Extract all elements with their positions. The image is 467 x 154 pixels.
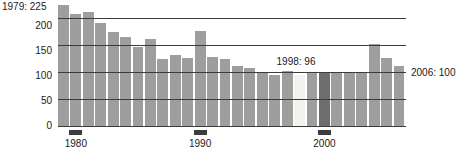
- plot-area: [58, 0, 406, 127]
- bar-rect-1998: [294, 75, 305, 127]
- bar-1979: [58, 0, 69, 127]
- annotation-first-year: 1979: 225: [2, 2, 47, 12]
- bar-1993: [232, 0, 243, 127]
- bar-1988: [170, 0, 181, 127]
- x-tick-label-2000: 2000: [302, 138, 346, 149]
- bar-rect-1991: [207, 57, 218, 127]
- bar-1992: [220, 0, 231, 127]
- bar-rect-1983: [108, 32, 119, 127]
- x-tick-label-1980: 1980: [54, 138, 98, 149]
- y-tick-label-0: 0: [46, 121, 52, 131]
- bar-2002: [344, 0, 355, 127]
- bar-1998: [294, 0, 305, 127]
- bar-rect-1992: [220, 59, 231, 127]
- bar-1990: [195, 0, 206, 127]
- bar-1984: [120, 0, 131, 127]
- bar-rect-1988: [170, 55, 181, 127]
- y-tick-label-150: 150: [35, 46, 52, 56]
- bar-rect-1987: [157, 59, 168, 127]
- bar-rect-1980: [70, 14, 81, 127]
- bar-2003: [356, 0, 367, 127]
- bar-2001: [331, 0, 342, 127]
- bar-rect-1997: [282, 71, 293, 127]
- bar-rect-2006: [394, 66, 405, 127]
- bar-1981: [83, 0, 94, 127]
- bar-rect-2000: [319, 73, 330, 127]
- bar-rect-1979: [58, 5, 69, 127]
- x-tick-label-1990: 1990: [178, 138, 222, 149]
- x-tick-1980: [69, 130, 82, 135]
- bar-2000: [319, 0, 330, 127]
- bar-rect-1996: [269, 75, 280, 127]
- bar-rect-1986: [145, 39, 156, 127]
- bar-1997: [282, 0, 293, 127]
- bar-rect-2001: [331, 73, 342, 127]
- y-tick-label-200: 200: [35, 21, 52, 31]
- bar-1995: [257, 0, 268, 127]
- bar-rect-2002: [344, 73, 355, 127]
- bar-2005: [381, 0, 392, 127]
- bar-1991: [207, 0, 218, 127]
- bar-rect-1990: [195, 31, 206, 127]
- bar-1989: [182, 0, 193, 127]
- bar-1980: [70, 0, 81, 127]
- bar-1983: [108, 0, 119, 127]
- bar-rect-2004: [369, 44, 380, 127]
- x-axis: 198019902000: [58, 127, 406, 154]
- bar-rect-1985: [133, 47, 144, 127]
- bar-rect-2005: [381, 58, 392, 127]
- bar-rect-2003: [356, 73, 367, 127]
- x-tick-1990: [194, 130, 207, 135]
- bar-rect-1984: [120, 37, 131, 127]
- y-tick-label-100: 100: [35, 71, 52, 81]
- bar-1994: [244, 0, 255, 127]
- y-axis: 200 150 100 50 0: [0, 0, 52, 140]
- annotation-last-year: 2006: 100: [411, 68, 456, 78]
- bar-rect-1995: [257, 73, 268, 127]
- bar-rect-1999: [307, 72, 318, 127]
- bar-rect-1982: [95, 23, 106, 127]
- bar-1999: [307, 0, 318, 127]
- bar-chart: 200 150 100 50 0 1979: 225 1998: 96 2006…: [0, 0, 467, 154]
- y-tick-label-50: 50: [41, 96, 52, 106]
- bar-rect-1993: [232, 66, 243, 127]
- bar-rect-1981: [83, 12, 94, 127]
- bar-series: [58, 0, 406, 127]
- bar-1986: [145, 0, 156, 127]
- bar-rect-1989: [182, 58, 193, 127]
- bar-2006: [394, 0, 405, 127]
- bar-rect-1994: [244, 68, 255, 127]
- bar-1996: [269, 0, 280, 127]
- bar-2004: [369, 0, 380, 127]
- bar-1982: [95, 0, 106, 127]
- bar-1985: [133, 0, 144, 127]
- bar-1987: [157, 0, 168, 127]
- x-tick-2000: [318, 130, 331, 135]
